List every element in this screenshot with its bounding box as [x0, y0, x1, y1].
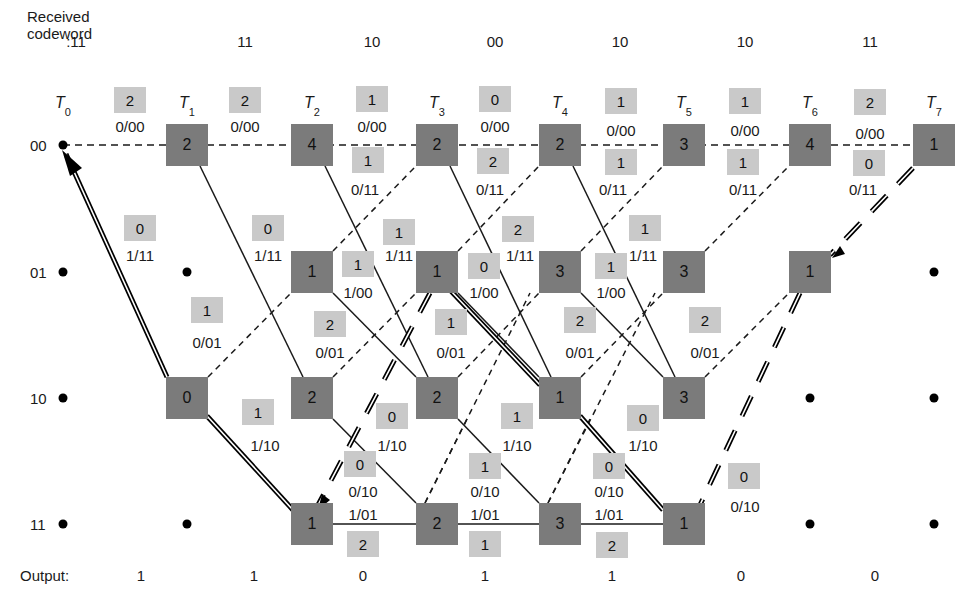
branch-metric-box: 2 [314, 311, 346, 337]
branch-input-output-label: 1/10 [502, 437, 531, 454]
path-metric-node: 3 [663, 377, 705, 419]
branch-metric-box: 0 [593, 453, 625, 479]
path-metric-node: 0 [166, 377, 208, 419]
branch-metric-box: 1 [605, 149, 637, 175]
path-metric-node: 2 [291, 377, 333, 419]
branch-metric-box: 0 [124, 215, 156, 241]
branch-metric-box: 2 [347, 531, 379, 557]
output-bit-2: 0 [359, 567, 367, 584]
path-metric-node: 4 [291, 124, 333, 166]
codeword-4: 10 [612, 33, 629, 50]
branch-metric-box: 1 [501, 403, 533, 429]
branch-metric-box: 1 [729, 88, 761, 114]
branch-metric-box: 1 [191, 297, 223, 323]
branch-input-output-label: 1/11 [506, 247, 534, 264]
branch-input-output-label: 0/10 [730, 498, 759, 515]
branch-metric-box: 2 [596, 532, 628, 558]
branch-input-output-label: 0/01 [565, 344, 594, 361]
state-node-dot [930, 394, 939, 403]
branch-input-output-label: 0/11 [849, 181, 877, 198]
branch-metric-box: 1 [469, 531, 501, 557]
path-metric-node: 3 [539, 251, 581, 293]
path-metric-node: 1 [416, 251, 458, 293]
path-metric-node: 1 [663, 503, 705, 545]
path-metric-node: 4 [789, 124, 831, 166]
time-label-t2: T2 [304, 94, 320, 114]
path-metric-node: 2 [416, 124, 458, 166]
branch-metric-box: 2 [564, 307, 596, 333]
branch-input-output-label: 1/10 [628, 437, 657, 454]
output-bit-4: 1 [608, 567, 616, 584]
branch-input-output-label: 0/11 [729, 181, 757, 198]
time-label-t3: T3 [429, 94, 445, 114]
path-metric-node: 1 [789, 251, 831, 293]
branch-input-output-label: 0/01 [192, 334, 221, 351]
branch-metric-box: 1 [342, 251, 374, 277]
branch-metric-box: 0 [376, 403, 408, 429]
state-node-dot [930, 520, 939, 529]
codeword-0: :11 [66, 33, 86, 50]
branch-metric-box: 1 [356, 86, 388, 112]
branch-metric-box: 0 [479, 86, 511, 112]
time-label-t5: T5 [676, 94, 692, 114]
path-metric-node: 3 [663, 124, 705, 166]
branch-metric-box: 1 [595, 253, 627, 279]
branch-input-output-label: 1/01 [470, 506, 499, 523]
branch-metric-box: 0 [853, 150, 885, 176]
branch-metric-box: 0 [627, 405, 659, 431]
branch-metric-box: 2 [229, 87, 261, 113]
state-node-dot [59, 268, 68, 277]
output-bit-0: 1 [137, 567, 145, 584]
path-metric-node: 1 [539, 377, 581, 419]
branch-input-output-label: 1/11 [126, 247, 154, 264]
state-label-11: 11 [30, 516, 46, 533]
branch-metric-box: 0 [344, 451, 376, 477]
time-label-t6: T6 [802, 94, 818, 114]
branch-input-output-label: 0/00 [730, 122, 759, 139]
branch-input-output-label: 1/00 [343, 284, 372, 301]
state-node-dot [183, 268, 192, 277]
branch-metric-box: 1 [352, 147, 384, 173]
state-node-dot [930, 268, 939, 277]
branch-metric-box: 1 [383, 219, 415, 245]
state-node-dot [806, 520, 815, 529]
branch-metric-box: 2 [114, 87, 146, 113]
state-node-dot [59, 394, 68, 403]
time-label-t4: T4 [552, 94, 568, 114]
branch-metric-box: 1 [727, 149, 759, 175]
branch-input-output-label: 0/00 [230, 118, 259, 135]
viterbi-trellis-diagram: Received codeword :11111000101011 T0T1T2… [0, 0, 979, 615]
branch-input-output-label: 0/11 [351, 181, 379, 198]
time-label-t7: T7 [926, 94, 942, 114]
branch-input-output-label: 0/11 [476, 181, 504, 198]
branch-metric-box: 0 [252, 215, 284, 241]
branch-input-output-label: 0/00 [115, 118, 144, 135]
path-metric-node: 1 [291, 251, 333, 293]
path-metric-node: 3 [663, 251, 705, 293]
branch-metric-box: 2 [502, 216, 534, 242]
branch-input-output-label: 1/01 [348, 506, 377, 523]
branch-metric-box: 1 [435, 309, 467, 335]
state-label-10: 10 [30, 390, 47, 407]
state-label-00: 00 [30, 137, 47, 154]
codeword-2: 10 [364, 33, 381, 50]
path-metric-node: 2 [166, 124, 208, 166]
arrowhead-icon [62, 150, 82, 176]
branch-input-output-label: 0/10 [470, 483, 499, 500]
time-label-t1: T1 [179, 94, 195, 114]
branch-input-output-label: 0/00 [357, 118, 386, 135]
branch-input-output-label: 1/11 [385, 247, 413, 264]
branch-input-output-label: 0/00 [606, 122, 635, 139]
branch-input-output-label: 0/11 [599, 181, 627, 198]
branch-metric-box: 0 [468, 253, 500, 279]
branch-metric-box: 1 [629, 215, 661, 241]
codeword-3: 00 [487, 33, 504, 50]
branch-input-output-label: 0/01 [315, 344, 344, 361]
branch-metric-box: 0 [728, 463, 760, 489]
branch-metric-box: 1 [242, 399, 274, 425]
path-metric-node: 2 [416, 503, 458, 545]
branch-input-output-label: 0/10 [348, 483, 377, 500]
output-bit-1: 1 [250, 567, 258, 584]
branch-metric-box: 1 [605, 88, 637, 114]
path-metric-node: 3 [539, 503, 581, 545]
